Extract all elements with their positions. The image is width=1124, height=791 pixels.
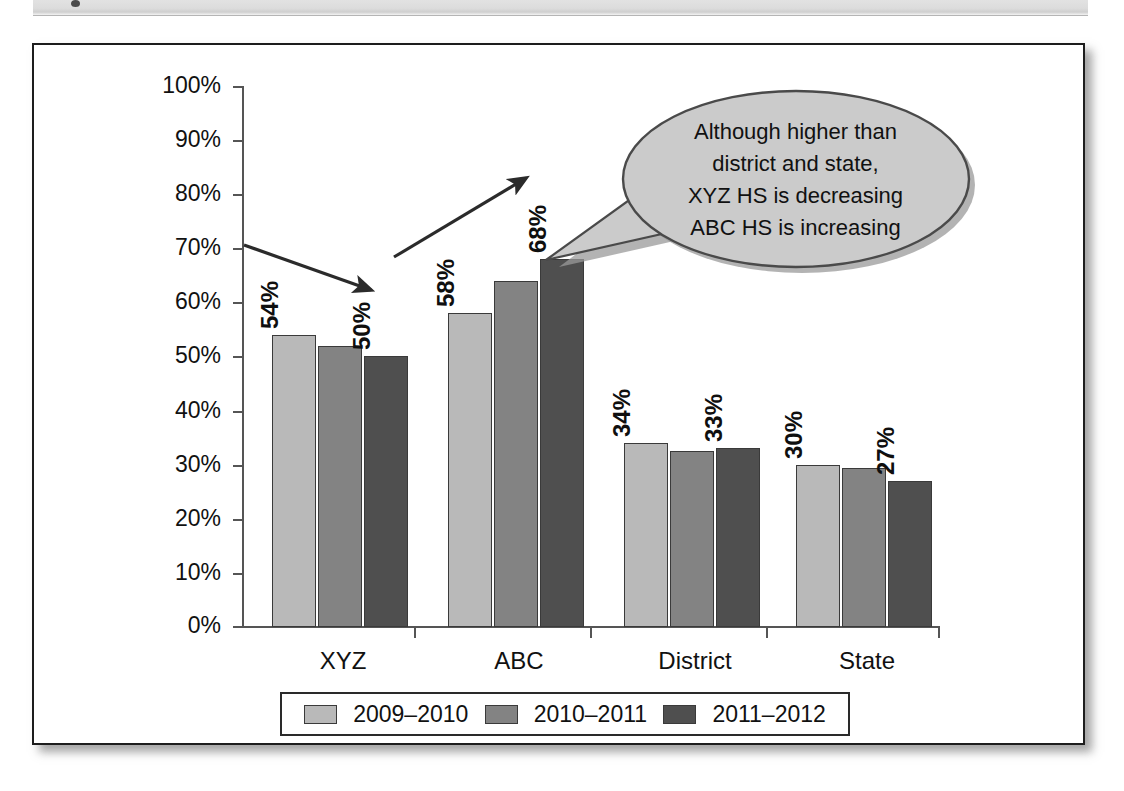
y-tick-label-20: 20% — [175, 507, 221, 530]
scanned-page-banner — [33, 0, 1088, 16]
callout-line-2: district and state, — [712, 149, 878, 179]
bar-value-label: 68% — [538, 229, 562, 277]
callout-line-1: Although higher than — [694, 117, 897, 147]
bar-group-abc: 58% 68% — [448, 86, 590, 627]
legend-label: 2010–2011 — [534, 701, 647, 728]
bar-abc-2009-2010[interactable]: 58% — [448, 313, 492, 627]
y-axis-line — [242, 86, 244, 628]
figure-frame: 100% 90% 80% 70% 60% 50% 40% 30% 20% 10%… — [32, 43, 1085, 745]
category-label-district: District — [624, 647, 766, 675]
x-axis-separator — [938, 627, 940, 638]
bar-value-label: 30% — [794, 435, 818, 483]
y-tick-80: 80% — [233, 194, 242, 196]
y-tick-60: 60% — [233, 302, 242, 304]
x-axis-separator — [766, 627, 768, 638]
y-tick-label-30: 30% — [175, 453, 221, 476]
y-tick-label-10: 10% — [175, 561, 221, 584]
callout-text-container: Although higher than district and state,… — [623, 89, 968, 270]
bar-xyz-2010-2011[interactable] — [318, 346, 362, 627]
callout-line-3: XYZ HS is decreasing — [688, 181, 903, 211]
category-label-state: State — [796, 647, 938, 675]
callout-line-4: ABC HS is increasing — [690, 213, 900, 243]
legend-swatch-icon — [663, 705, 696, 724]
bar-district-2011-2012[interactable]: 33% — [716, 448, 760, 627]
y-tick-10: 10% — [233, 573, 242, 575]
legend-item-2009-2010[interactable]: 2009–2010 — [304, 701, 468, 728]
y-tick-label-100: 100% — [162, 74, 221, 97]
category-label-abc: ABC — [448, 647, 590, 675]
y-tick-0: 0% — [233, 626, 242, 628]
bar-district-2010-2011[interactable] — [670, 451, 714, 627]
bar-state-2010-2011[interactable] — [842, 468, 886, 627]
y-tick-40: 40% — [233, 411, 242, 413]
bar-value-label: 27% — [886, 451, 910, 499]
callout-text: Although higher than district and state,… — [623, 89, 968, 270]
chart-legend: 2009–2010 2010–2011 2011–2012 — [280, 692, 850, 736]
bar-xyz-2009-2010[interactable]: 54% — [272, 335, 316, 627]
y-tick-100: 100% — [233, 86, 242, 88]
y-tick-label-70: 70% — [175, 236, 221, 259]
bar-xyz-2011-2012[interactable]: 50% — [364, 356, 408, 627]
legend-item-2010-2011[interactable]: 2010–2011 — [485, 701, 647, 728]
banner-bullet-icon — [71, 0, 80, 7]
y-tick-label-90: 90% — [175, 128, 221, 151]
legend-swatch-icon — [304, 705, 337, 724]
y-tick-30: 30% — [233, 465, 242, 467]
y-tick-label-50: 50% — [175, 344, 221, 367]
legend-label: 2009–2010 — [353, 701, 468, 728]
x-axis-separator — [414, 627, 416, 638]
y-tick-20: 20% — [233, 519, 242, 521]
y-tick-90: 90% — [233, 140, 242, 142]
y-tick-label-40: 40% — [175, 399, 221, 422]
category-label-xyz: XYZ — [272, 647, 414, 675]
bar-state-2009-2010[interactable]: 30% — [796, 465, 840, 627]
y-tick-50: 50% — [233, 356, 242, 358]
bar-value-label: 54% — [270, 305, 294, 353]
bar-state-2011-2012[interactable]: 27% — [888, 481, 932, 627]
x-axis-separator — [590, 627, 592, 638]
bar-value-label: 33% — [714, 418, 738, 466]
bar-abc-2010-2011[interactable] — [494, 281, 538, 627]
legend-item-2011-2012[interactable]: 2011–2012 — [663, 701, 825, 728]
legend-label: 2011–2012 — [712, 701, 825, 728]
bar-abc-2011-2012[interactable]: 68% — [540, 259, 584, 627]
y-tick-label-0: 0% — [188, 614, 221, 637]
y-tick-label-60: 60% — [175, 290, 221, 313]
bar-group-xyz: 54% 50% — [272, 86, 414, 627]
bar-value-label: 58% — [446, 283, 470, 331]
y-tick-70: 70% — [233, 248, 242, 250]
legend-swatch-icon — [485, 705, 518, 724]
bar-value-label: 50% — [362, 326, 386, 374]
bar-value-label: 34% — [622, 413, 646, 461]
bar-district-2009-2010[interactable]: 34% — [624, 443, 668, 627]
y-tick-label-80: 80% — [175, 182, 221, 205]
